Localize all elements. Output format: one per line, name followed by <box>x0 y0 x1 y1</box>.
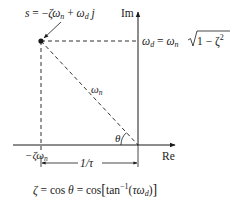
sqrt-radicand: 1 − ζ2 <box>197 33 224 48</box>
time-constant-label: 1/τ <box>80 157 94 169</box>
s-plane-diagram: s = −ζωn + ωd j Im ωd = ωn 1 − ζ2 ωn θ R… <box>0 0 233 203</box>
real-axis-label: Re <box>162 150 175 162</box>
pole-leader-arrow <box>44 22 61 38</box>
theta-arc <box>121 133 126 145</box>
imaginary-axis-label: Im <box>121 7 134 19</box>
damping-ratio-formula: ζ = cos θ = cos[tan−1(τωd)] <box>33 182 157 198</box>
theta-label: θ <box>115 132 121 144</box>
pole-label: s = −ζωn + ωd j <box>25 7 95 21</box>
pole-point <box>38 38 43 43</box>
radius-vector-dashed <box>41 41 138 145</box>
natural-frequency-label: ωn <box>91 83 103 97</box>
real-part-label: −ζωn <box>25 149 48 163</box>
damped-frequency-label: ωd = ωn <box>142 35 179 49</box>
